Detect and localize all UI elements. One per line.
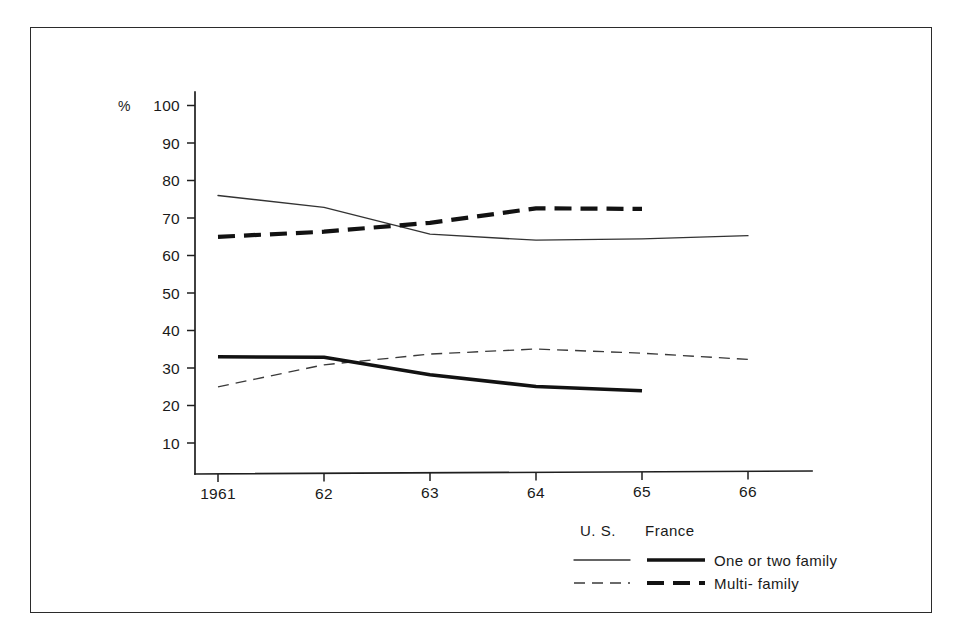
y-tick-label-70: 70 (162, 210, 180, 227)
legend-column-header-us: U. S. (580, 522, 616, 539)
x-tick-label-65: 65 (633, 483, 651, 500)
chart-figure: 100 90 80 70 60 50 40 30 20 10 % 1961 62… (0, 0, 953, 633)
y-tick-label-80: 80 (162, 172, 180, 189)
legend-label-multi-family: Multi- family (714, 575, 799, 592)
y-axis-ticks (187, 106, 195, 444)
series-line-france-multi-family (218, 208, 642, 237)
x-tick-label-66: 66 (739, 483, 757, 500)
y-tick-label-30: 30 (162, 360, 180, 377)
y-tick-label-20: 20 (162, 397, 180, 414)
y-tick-label-40: 40 (162, 322, 180, 339)
x-tick-label-1961: 1961 (200, 485, 236, 502)
x-axis-line (195, 471, 812, 474)
x-tick-label-64: 64 (527, 484, 545, 501)
chart-legend: U. S. France One or two family Multi- fa… (574, 522, 838, 592)
x-tick-label-62: 62 (315, 485, 333, 502)
y-tick-label-100: 100 (153, 97, 180, 114)
x-tick-label-63: 63 (421, 484, 439, 501)
y-tick-label-10: 10 (162, 435, 180, 452)
y-axis-tick-labels: 100 90 80 70 60 50 40 30 20 10 (153, 97, 180, 452)
y-axis-unit-label: % (118, 98, 130, 114)
legend-label-one-or-two-family: One or two family (714, 552, 838, 569)
y-tick-label-60: 60 (162, 247, 180, 264)
y-tick-label-90: 90 (162, 135, 180, 152)
y-tick-label-50: 50 (162, 285, 180, 302)
x-axis-tick-labels: 1961 62 63 64 65 66 (200, 483, 757, 503)
legend-column-header-france: France (645, 522, 695, 539)
chart-plot-area: 100 90 80 70 60 50 40 30 20 10 % 1961 62… (0, 0, 953, 633)
